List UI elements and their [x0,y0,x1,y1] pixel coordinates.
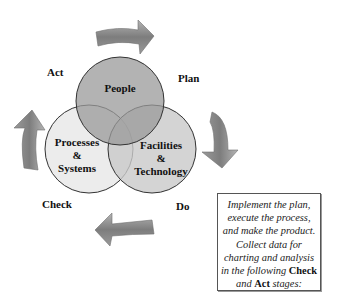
note-line: execute the process, [218,211,320,224]
note-text: and [236,278,254,289]
label-facilities-amp: & [156,152,165,164]
stage-do: Do [176,200,189,212]
note-line: and make the product. [218,224,320,237]
label-technology: Technology [134,165,188,177]
arrow-down-icon [202,112,238,168]
stage-check: Check [42,198,72,210]
label-facilities: Facilities [140,139,183,151]
arrow-right-icon [96,20,154,54]
label-systems: Systems [58,162,97,174]
note-bold-act: Act [254,278,270,289]
note-text: stages: [270,278,302,289]
note-line: and Act stages: [218,277,320,290]
note-box: Implement the plan, execute the process,… [217,193,321,291]
note-line: Collect data for [218,238,320,251]
note-line: charting and analysis [218,251,320,264]
label-processes-amp: & [72,149,81,161]
note-bold-check: Check [289,265,317,276]
arrow-left-icon [95,213,154,246]
stage-act: Act [47,66,64,78]
note-text: in the following [221,265,289,276]
label-processes: Processes [55,136,100,148]
arrow-up-icon [14,110,45,170]
label-people: People [104,82,135,94]
note-line: Implement the plan, [218,198,320,211]
circle-people [76,57,164,145]
stage-plan: Plan [178,72,199,84]
note-line: in the following Check [218,264,320,277]
